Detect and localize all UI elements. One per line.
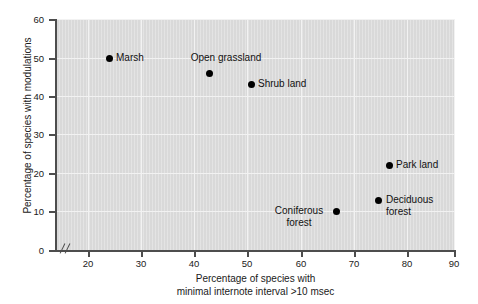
x-tick-20: [88, 251, 90, 257]
x-ticklabel-60: 60: [284, 259, 318, 269]
gridline-y-30: [56, 134, 455, 135]
gridline-y-40: [56, 96, 455, 97]
x-tick-50: [247, 251, 249, 257]
x-tick-90: [454, 251, 456, 257]
y-tick-50: [49, 58, 55, 60]
y-axis-line: [55, 19, 57, 251]
gridline-y-60: [56, 19, 455, 20]
y-axis-title: Percentage of species with modulations: [22, 11, 33, 241]
point-label-open-grassland: Open grassland: [166, 52, 286, 64]
plot-area: Marsh Open grassland Shrub land Park lan…: [56, 19, 455, 250]
x-ticklabel-50: 50: [230, 259, 264, 269]
y-tick-0: [49, 250, 55, 252]
datapoint-deciduous-forest[interactable]: [375, 197, 382, 204]
datapoint-open-grassland[interactable]: [206, 70, 213, 77]
y-ticklabel-0: 0: [14, 246, 44, 256]
x-tick-40: [194, 251, 196, 257]
datapoint-shrub-land[interactable]: [248, 81, 255, 88]
gridline-y-20: [56, 173, 455, 174]
x-tick-80: [407, 251, 409, 257]
x-tick-70: [354, 251, 356, 257]
x-axis-title-line2: minimal internote interval >10 msec: [56, 285, 455, 298]
datapoint-coniferous-forest[interactable]: [333, 208, 340, 215]
x-axis-break-icon: [60, 243, 74, 255]
x-tick-30: [141, 251, 143, 257]
point-label-coniferous-forest: Coniferous forest: [268, 205, 330, 228]
x-axis-line: [55, 250, 456, 252]
datapoint-park-land[interactable]: [386, 162, 393, 169]
x-ticklabel-80: 80: [390, 259, 424, 269]
x-ticklabel-30: 30: [124, 259, 158, 269]
y-tick-30: [49, 134, 55, 136]
x-ticklabel-40: 40: [177, 259, 211, 269]
y-tick-20: [49, 173, 55, 175]
y-tick-40: [49, 96, 55, 98]
y-tick-10: [49, 211, 55, 213]
x-axis-title: Percentage of species with minimal inter…: [56, 272, 455, 298]
point-label-park-land: Park land: [396, 159, 438, 171]
x-ticklabel-20: 20: [71, 259, 105, 269]
point-label-shrub-land: Shrub land: [258, 78, 306, 90]
y-tick-60: [49, 19, 55, 21]
point-label-deciduous-forest: Deciduous forest: [386, 194, 433, 217]
point-label-marsh: Marsh: [116, 52, 144, 64]
scatter-plot-figure: Marsh Open grassland Shrub land Park lan…: [0, 0, 478, 304]
x-ticklabel-90: 90: [437, 259, 471, 269]
x-axis-title-line1: Percentage of species with: [56, 272, 455, 285]
x-ticklabel-70: 70: [337, 259, 371, 269]
datapoint-marsh[interactable]: [106, 55, 113, 62]
x-tick-60: [301, 251, 303, 257]
